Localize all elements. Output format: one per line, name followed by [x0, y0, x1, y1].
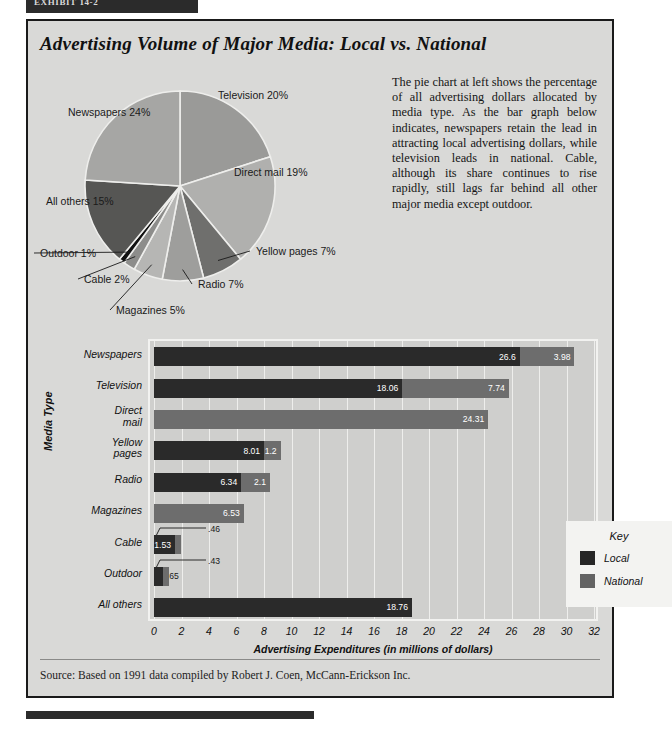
- bar-value-national-newspapers: 3.98: [554, 352, 575, 362]
- page-title: Advertising Volume of Major Media: Local…: [40, 33, 487, 55]
- bar-segment-national-television: 7.74: [402, 379, 508, 398]
- x-tick-2: 2: [179, 625, 185, 637]
- legend-label-national: National: [604, 575, 643, 587]
- pie-label: Magazines 5%: [116, 304, 185, 316]
- pie-label: Newspapers 24%: [68, 106, 150, 118]
- source-divider: [40, 659, 600, 660]
- pie-chart-svg: Television 20%Direct mail 19%Newspapers …: [32, 61, 384, 331]
- bar-callout-value-cable: .46: [208, 524, 220, 534]
- y-axis-label-cable: Cable: [38, 537, 142, 549]
- x-tick-12: 12: [313, 625, 325, 637]
- x-tick-26: 26: [506, 625, 518, 637]
- bar-value-national-radio: 2.1: [254, 477, 270, 487]
- bar-segment-local-yellow-pages: 8.01: [154, 441, 264, 460]
- y-axis-label-all-others: All others: [38, 599, 142, 611]
- bar-segment-national-radio: 2.1: [241, 473, 270, 492]
- y-axis-label-radio: Radio: [38, 474, 142, 486]
- bar-row-magazines: 6.53: [154, 504, 244, 523]
- x-tick-24: 24: [478, 625, 490, 637]
- x-tick-0: 0: [151, 625, 157, 637]
- description-paragraph: The pie chart at left shows the percenta…: [392, 75, 597, 212]
- y-axis-label-yellow-pages: Yellowpages: [38, 437, 142, 460]
- bar-value-local-all-others: 18.76: [386, 602, 412, 612]
- legend-item-local: Local: [580, 551, 672, 565]
- y-axis-label-television: Television: [38, 380, 142, 392]
- x-tick-32: 32: [588, 625, 600, 637]
- x-axis-tick-labels: 02468101214161820222426283032: [148, 625, 598, 641]
- bar-callout-value-outdoor: .43: [208, 556, 220, 566]
- legend-label-local: Local: [604, 552, 629, 564]
- bar-segment-national-yellow-pages: 1.2: [264, 441, 281, 460]
- bar-row-radio: 6.342.1: [154, 473, 270, 492]
- legend-swatch-national: [580, 574, 595, 588]
- plot-area: 26.63.9818.067.7424.318.011.26.342.16.53…: [148, 339, 598, 621]
- y-axis-label-direct-mail: Directmail: [38, 405, 142, 428]
- pie-label: Yellow pages 7%: [256, 245, 336, 257]
- y-axis-category-labels: NewspapersTelevisionDirectmailYellowpage…: [36, 339, 142, 621]
- bar-segment-national-outdoor: [163, 567, 169, 586]
- bar-row-yellow-pages: 8.011.2: [154, 441, 281, 460]
- x-tick-16: 16: [368, 625, 380, 637]
- bar-segment-national-cable: [175, 535, 181, 554]
- bar-rows: 26.63.9818.067.7424.318.011.26.342.16.53…: [150, 341, 596, 619]
- bar-row-all-others: 18.76: [154, 598, 412, 617]
- bar-row-newspapers: 26.63.98: [154, 347, 574, 366]
- pie-label: All others 15%: [46, 195, 114, 207]
- x-tick-6: 6: [234, 625, 240, 637]
- bar-segment-national-direct-mail: 24.31: [154, 410, 488, 429]
- legend-swatch-local: [580, 551, 595, 565]
- bar-value-local-cable: 1.53: [154, 540, 175, 550]
- pie-label: Outdoor 1%: [40, 247, 96, 259]
- bar-value-national-direct-mail: 24.31: [463, 414, 489, 424]
- x-tick-10: 10: [286, 625, 298, 637]
- bar-segment-local-television: 18.06: [154, 379, 402, 398]
- x-tick-18: 18: [396, 625, 408, 637]
- legend: Key Local National: [566, 521, 672, 607]
- bar-row-outdoor: .65: [154, 567, 169, 586]
- legend-title: Key: [566, 530, 672, 542]
- bar-segment-local-all-others: 18.76: [154, 598, 412, 617]
- pie-label: Television 20%: [218, 89, 288, 101]
- bar-row-cable: 1.53: [154, 535, 181, 554]
- bar-segment-local-newspapers: 26.6: [154, 347, 520, 366]
- bar-segment-local-cable: 1.53: [154, 535, 175, 554]
- pie-label: Cable 2%: [84, 273, 130, 285]
- x-tick-20: 20: [423, 625, 435, 637]
- bar-value-national-yellow-pages: 1.2: [265, 446, 281, 456]
- pie-label: Direct mail 19%: [234, 166, 308, 178]
- y-axis-label-magazines: Magazines: [38, 505, 142, 517]
- exhibit-tab-label: EXHIBIT 14-2: [34, 0, 98, 7]
- bottom-rule: [26, 711, 314, 719]
- y-axis-label-outdoor: Outdoor: [38, 568, 142, 580]
- pie-label: Radio 7%: [198, 278, 244, 290]
- bar-value-local-yellow-pages: 8.01: [243, 446, 264, 456]
- x-axis-title: Advertising Expenditures (in millions of…: [148, 643, 598, 655]
- source-note: Source: Based on 1991 data compiled by R…: [40, 669, 410, 681]
- bar-value-local-television: 18.06: [377, 383, 403, 393]
- y-axis-label-newspapers: Newspapers: [38, 349, 142, 361]
- bar-value-national-television: 7.74: [488, 383, 509, 393]
- x-tick-14: 14: [341, 625, 353, 637]
- x-tick-30: 30: [561, 625, 573, 637]
- bar-segment-national-newspapers: 3.98: [520, 347, 575, 366]
- exhibit-panel: Advertising Volume of Major Media: Local…: [26, 19, 614, 698]
- bar-value-local-radio: 6.34: [220, 477, 241, 487]
- x-tick-8: 8: [261, 625, 267, 637]
- bar-segment-national-magazines: 6.53: [154, 504, 244, 523]
- legend-item-national: National: [580, 574, 672, 588]
- x-tick-4: 4: [206, 625, 212, 637]
- exhibit-tab: EXHIBIT 14-2: [26, 0, 198, 13]
- bar-segment-local-outdoor: .65: [154, 567, 163, 586]
- bar-row-television: 18.067.74: [154, 379, 509, 398]
- pie-chart: Television 20%Direct mail 19%Newspapers …: [32, 61, 384, 331]
- bar-row-direct-mail: 24.31: [154, 410, 488, 429]
- x-tick-22: 22: [451, 625, 463, 637]
- bar-value-local-newspapers: 26.6: [499, 352, 520, 362]
- bar-value-national-magazines: 6.53: [223, 508, 244, 518]
- bar-segment-local-radio: 6.34: [154, 473, 241, 492]
- x-tick-28: 28: [533, 625, 545, 637]
- bar-chart: Media Type NewspapersTelevisionDirectmai…: [36, 321, 606, 676]
